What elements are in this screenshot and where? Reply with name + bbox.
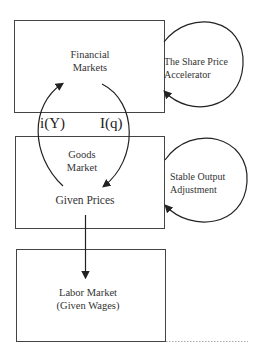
financial-markets-label: Financial Markets bbox=[55, 48, 125, 74]
symbol-i-of-y: i(Y) bbox=[40, 115, 65, 132]
stable-output-adjustment-label: Stable Output Adjustment bbox=[170, 170, 250, 196]
symbol-I-of-q: I(q) bbox=[100, 115, 123, 132]
given-prices-label: Given Prices bbox=[40, 194, 130, 207]
labor-market-label: Labor Market (Given Wages) bbox=[48, 286, 128, 312]
goods-market-label: Goods Market bbox=[50, 148, 114, 174]
share-price-accelerator-label: The Share Price Accelerator bbox=[164, 55, 244, 81]
